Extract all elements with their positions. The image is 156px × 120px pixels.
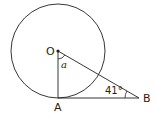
center-point-o (56, 49, 59, 52)
label-b: B (143, 92, 151, 105)
label-angle-41: 41° (105, 85, 123, 96)
angle-arc-b (125, 91, 127, 98)
geometry-diagram: O a A B 41° (0, 0, 156, 120)
label-a: A (54, 101, 62, 114)
segment-ob (58, 51, 139, 98)
label-o: O (46, 45, 55, 58)
label-angle-a: a (61, 59, 67, 70)
